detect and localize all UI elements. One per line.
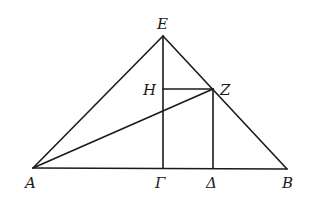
label-Gamma: Γ bbox=[154, 174, 166, 192]
label-B: B bbox=[281, 174, 293, 192]
label-Delta: Δ bbox=[205, 174, 217, 192]
label-H: H bbox=[142, 81, 157, 99]
label-Z: Z bbox=[219, 81, 231, 99]
geometry-diagram: E H Z A Γ Δ B bbox=[0, 0, 321, 214]
label-A: A bbox=[23, 174, 36, 192]
segment-AZ bbox=[33, 89, 213, 168]
label-E: E bbox=[156, 15, 168, 33]
segment-AE bbox=[33, 36, 163, 168]
segment-AB bbox=[33, 168, 287, 169]
